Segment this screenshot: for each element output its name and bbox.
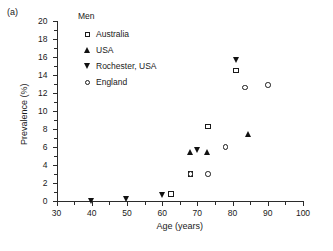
y-minor-tick <box>54 48 57 49</box>
x-minor-tick <box>285 201 286 205</box>
x-tick-label: 100 <box>292 208 314 218</box>
x-axis-label: Age (years) <box>120 221 240 231</box>
x-major-tick <box>162 201 163 206</box>
data-point <box>233 68 239 74</box>
legend-label: Australia <box>96 30 129 39</box>
marker-glyph <box>188 171 194 177</box>
marker-glyph <box>233 57 239 63</box>
data-point <box>223 144 229 150</box>
y-minor-tick <box>54 30 57 31</box>
legend-label: Rochester, USA <box>96 62 156 71</box>
x-major-tick <box>57 201 58 206</box>
x-tick-label: 40 <box>81 208 103 218</box>
y-major-tick <box>53 183 57 184</box>
y-tick-label: 18 <box>30 34 48 44</box>
marker-glyph <box>159 192 165 198</box>
marker-glyph <box>245 131 251 137</box>
x-minor-tick <box>215 201 216 205</box>
x-tick-label: 30 <box>46 208 68 218</box>
marker-glyph <box>204 149 210 155</box>
x-major-tick <box>233 201 234 206</box>
marker-glyph <box>242 85 248 91</box>
y-tick-label: 6 <box>30 142 48 152</box>
data-point <box>88 198 94 204</box>
x-tick-label: 70 <box>186 208 208 218</box>
y-tick-label: 12 <box>30 88 48 98</box>
x-major-tick <box>303 201 304 206</box>
x-tick-label: 90 <box>257 208 279 218</box>
y-tick-label: 14 <box>30 70 48 80</box>
data-point <box>245 131 251 137</box>
y-minor-tick <box>54 138 57 139</box>
data-point <box>205 124 211 130</box>
y-major-tick <box>53 39 57 40</box>
data-point <box>233 57 239 63</box>
legend-item-england: England <box>78 76 156 89</box>
marker-glyph <box>168 191 174 197</box>
x-minor-tick <box>180 201 181 205</box>
y-major-tick <box>53 93 57 94</box>
legend-label: USA <box>96 46 113 55</box>
y-major-tick <box>53 147 57 148</box>
y-tick-label: 2 <box>30 178 48 188</box>
data-point <box>159 192 165 198</box>
marker-glyph <box>194 147 200 153</box>
y-tick-label: 4 <box>30 160 48 170</box>
y-minor-tick <box>54 192 57 193</box>
marker-glyph <box>205 124 211 130</box>
legend-marker-open-circle-icon <box>78 80 96 85</box>
marker-glyph <box>123 196 129 202</box>
y-minor-tick <box>54 84 57 85</box>
marker-glyph <box>85 80 90 85</box>
marker-glyph <box>88 198 94 204</box>
y-minor-tick <box>54 66 57 67</box>
y-tick-label: 0 <box>30 196 48 206</box>
marker-glyph <box>233 68 239 74</box>
y-minor-tick <box>54 174 57 175</box>
data-point <box>205 171 211 177</box>
y-tick-label: 8 <box>30 124 48 134</box>
legend-title: Men <box>78 12 156 21</box>
y-axis-spine <box>57 21 58 202</box>
marker-glyph <box>84 63 90 69</box>
panel-label: (a) <box>7 7 18 17</box>
y-tick-label: 10 <box>30 106 48 116</box>
marker-glyph <box>265 82 271 88</box>
marker-glyph <box>84 47 90 53</box>
x-tick-label: 60 <box>151 208 173 218</box>
data-point <box>204 149 210 155</box>
y-minor-tick <box>54 120 57 121</box>
y-tick-label: 20 <box>30 16 48 26</box>
y-tick-label: 16 <box>30 52 48 62</box>
marker-glyph <box>85 32 90 37</box>
legend-item-australia: Australia <box>78 28 156 41</box>
marker-glyph <box>187 149 193 155</box>
data-point <box>194 147 200 153</box>
y-major-tick <box>53 75 57 76</box>
data-point <box>123 196 129 202</box>
marker-glyph <box>205 171 211 177</box>
legend-label: England <box>96 78 127 87</box>
data-point <box>187 149 193 155</box>
x-tick-label: 80 <box>222 208 244 218</box>
y-major-tick <box>53 21 57 22</box>
legend-item-usa: USA <box>78 44 156 57</box>
chart-legend: Men AustraliaUSARochester, USAEngland <box>78 12 156 92</box>
legend-marker-filled-triangle-down-icon <box>78 63 96 69</box>
y-major-tick <box>53 111 57 112</box>
x-tick-label: 50 <box>116 208 138 218</box>
x-minor-tick <box>250 201 251 205</box>
legend-marker-filled-triangle-up-icon <box>78 47 96 53</box>
x-minor-tick <box>109 201 110 205</box>
legend-entries: AustraliaUSARochester, USAEngland <box>78 28 156 89</box>
y-major-tick <box>53 57 57 58</box>
y-major-tick <box>53 129 57 130</box>
data-point <box>168 191 174 197</box>
legend-marker-open-square-icon <box>78 32 96 37</box>
y-minor-tick <box>54 156 57 157</box>
y-major-tick <box>53 201 57 202</box>
x-minor-tick <box>145 201 146 205</box>
scatter-chart: (a) 0246810121416182030405060708090100 P… <box>0 0 333 251</box>
data-point <box>242 85 248 91</box>
x-major-tick <box>197 201 198 206</box>
